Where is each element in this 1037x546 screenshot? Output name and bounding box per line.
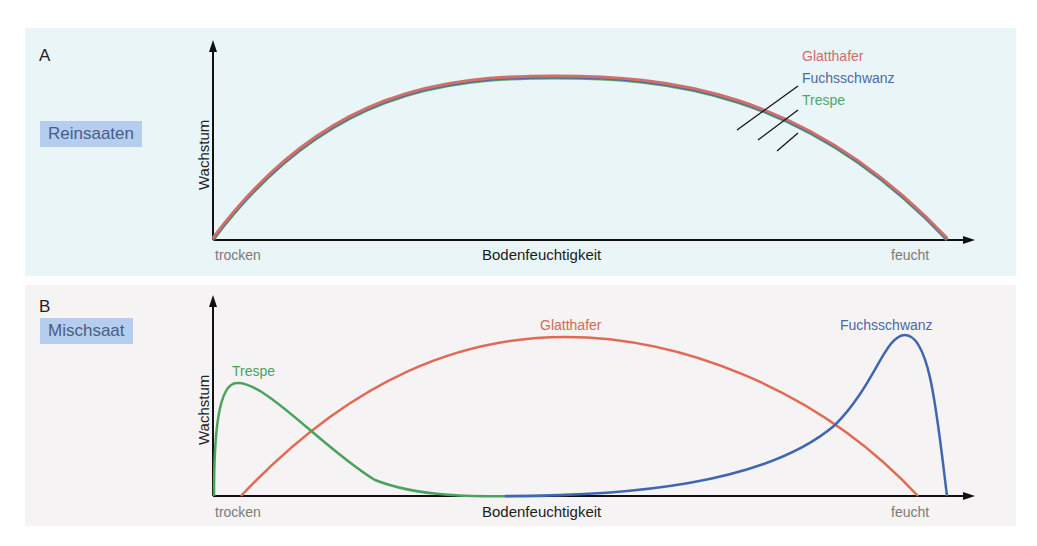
label-fuchsschwanz: Fuchsschwanz <box>840 317 933 333</box>
legend-trespe: Trespe <box>802 92 845 108</box>
curve-trespe <box>214 383 545 496</box>
leader-line-trespe <box>777 133 798 151</box>
x-max-label: feucht <box>891 247 929 263</box>
y-axis-label: Wachstum <box>195 375 212 445</box>
x-min-label: trocken <box>215 504 261 520</box>
legend-fuchsschwanz: Fuchsschwanz <box>802 70 895 86</box>
y-axis-label: Wachstum <box>195 120 212 190</box>
panel-b-mischsaat: B Mischsaat Wachstum Trespe Glatthafer F… <box>25 285 1016 526</box>
label-glatthafer: Glatthafer <box>540 317 601 333</box>
panel-a-reinsaaten: A Reinsaaten Wachstum trocken Bodenfeuch… <box>25 28 1016 276</box>
x-min-label: trocken <box>215 247 261 263</box>
chart-a-plot <box>25 28 1016 276</box>
legend-glatthafer: Glatthafer <box>802 48 863 64</box>
curve-fuchsschwanz <box>505 335 947 496</box>
x-axis-title: Bodenfeuchtigkeit <box>482 246 601 263</box>
x-axis-arrow-icon <box>963 236 975 244</box>
label-trespe: Trespe <box>232 363 275 379</box>
x-max-label: feucht <box>891 504 929 520</box>
x-axis-arrow-icon <box>963 492 975 500</box>
y-axis-arrow-icon <box>209 40 217 52</box>
y-axis-arrow-icon <box>209 295 217 307</box>
curve-glatthafer <box>241 337 918 496</box>
x-axis-title: Bodenfeuchtigkeit <box>482 503 601 520</box>
